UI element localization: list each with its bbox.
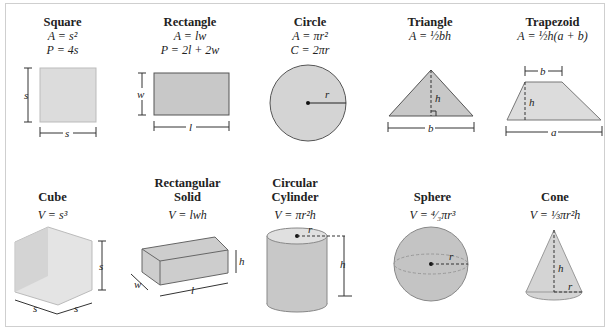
svg-text:r: r: [308, 223, 313, 235]
svg-text:h: h: [558, 262, 564, 274]
svg-text:h: h: [340, 258, 346, 270]
svg-text:s: s: [74, 302, 78, 314]
svg-text:s: s: [99, 260, 103, 272]
svg-text:w: w: [134, 278, 142, 290]
solids-diagram: s ss h w l r h r hr: [0, 0, 612, 334]
svg-text:l: l: [191, 284, 194, 296]
svg-text:h: h: [239, 255, 245, 267]
svg-text:r: r: [568, 280, 573, 292]
svg-text:s: s: [33, 302, 37, 314]
svg-text:r: r: [449, 250, 454, 262]
